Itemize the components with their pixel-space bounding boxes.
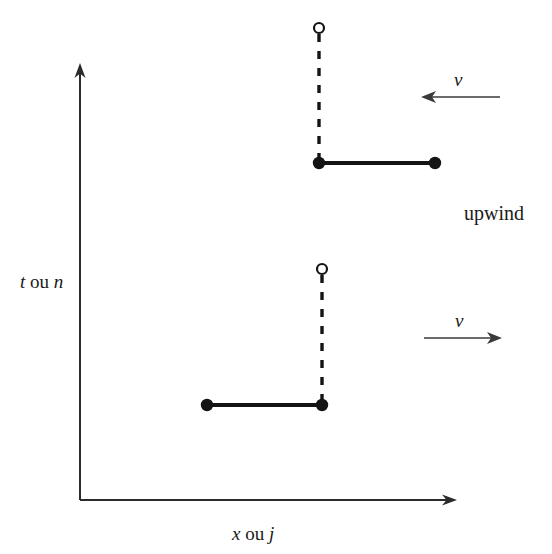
x-axis-label-conjunction: ou	[240, 523, 269, 544]
stencil-upper-filled-node-left	[313, 157, 325, 169]
stencil-upper	[313, 23, 441, 169]
scheme-name-label: upwind	[464, 203, 524, 223]
stencil-lower-open-node	[317, 264, 327, 274]
figure-canvas: t ou n x ou j v v upwind	[0, 0, 552, 554]
y-axis-label-conjunction: ou	[25, 271, 54, 292]
stencil-lower	[201, 264, 328, 411]
velocity-arrow-lower	[424, 332, 502, 344]
x-axis-label: x ou j	[232, 524, 274, 543]
x-axis-label-symbol-2: j	[269, 523, 274, 544]
stencil-lower-filled-node-left	[201, 399, 213, 411]
velocity-label-upper: v	[454, 70, 462, 89]
axis-group	[75, 63, 458, 506]
y-axis-label-symbol-2: n	[54, 271, 64, 292]
stencil-upper-open-node	[314, 23, 324, 33]
velocity-label-lower: v	[455, 311, 463, 330]
velocity-arrow-upper	[421, 91, 500, 103]
diagram-svg	[0, 0, 552, 554]
stencil-lower-filled-node-right	[316, 399, 328, 411]
stencil-upper-filled-node-right	[429, 157, 441, 169]
y-axis-label: t ou n	[20, 272, 63, 291]
